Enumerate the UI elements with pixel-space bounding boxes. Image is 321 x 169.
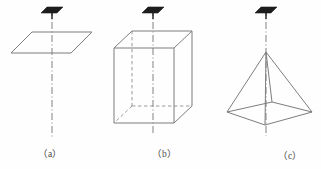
- geometry-figure-sheet: （a） （b） （c）: [0, 0, 321, 169]
- panel-c-group: [227, 7, 312, 136]
- pyramid-base: [227, 102, 312, 125]
- plane-marker-icon: [41, 7, 63, 13]
- plane-marker-icon: [142, 7, 164, 13]
- pyramid-lateral-edges: [227, 52, 312, 125]
- geometry-figure-svg: [0, 0, 321, 169]
- panel-b-group: [114, 7, 192, 135]
- plane-marker-icon: [255, 7, 277, 13]
- caption-panel-a: （a）: [38, 146, 62, 160]
- caption-panel-b: （b）: [152, 146, 177, 160]
- caption-panel-c: （c）: [278, 148, 302, 162]
- panel-a-group: [11, 7, 92, 138]
